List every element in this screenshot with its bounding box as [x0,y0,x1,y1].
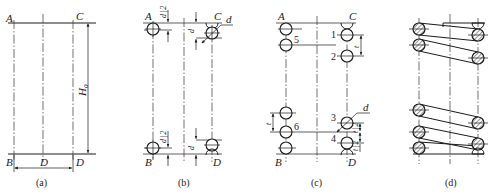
wire-arc-C [341,23,353,29]
point-C: C [214,10,222,22]
pitch-label-right: t [352,45,361,48]
point-B: B [275,156,282,168]
panel-c: 5 1 2 t 6 t 3 d 4 t|2 t|2 [264,10,370,189]
half-d-label: d|2 [159,6,168,18]
point-D: D [347,156,356,168]
circle-number-6: 6 [294,121,299,132]
pitch-label-left: t [264,122,273,125]
caption-c: (c) [311,177,322,189]
circle-number-5: 5 [294,34,299,45]
half-pitch-label: t|2 [351,123,360,133]
circle-number-4: 4 [331,133,336,144]
caption-a: (a) [36,177,47,189]
point-A: A [144,10,152,22]
caption-b: (b) [178,177,190,189]
circle-number-2: 2 [331,51,336,62]
panel-b: d d|2 d A C d|2 d B D (b) [143,6,233,189]
d-label-top: d [187,28,196,33]
point-D: D [75,156,84,168]
point-B: B [6,156,13,168]
d-label-bottom: d [187,145,196,150]
coil-outline [419,104,478,117]
coil-outline [419,51,478,64]
half-d-label-bottom: d|2 [159,131,168,143]
panel-a: H0 D A C B D (a) [5,10,96,189]
spring-drawing-figure: H0 D A C B D (a) d d|2 [0,0,492,195]
coil-outline [419,39,478,52]
point-D: D [212,156,221,168]
point-A: A [277,10,285,22]
point-A: A [5,12,13,24]
wire-d-label: d [226,13,232,25]
half-pitch-label-2: t|2 [351,141,360,151]
caption-d: (d) [445,177,457,189]
coil-outline [419,35,478,41]
coil-outline [419,23,478,29]
point-C: C [76,10,84,22]
circle-number-3: 3 [331,112,336,123]
height-label: H0 [76,84,90,97]
circle-number-1: 1 [331,29,336,40]
panel-d: (d) [409,14,488,189]
diameter-label: D [39,156,48,168]
point-B: B [145,156,152,168]
coil-outline [419,116,478,129]
point-C: C [349,10,357,22]
wire-d-label: d [363,101,369,113]
